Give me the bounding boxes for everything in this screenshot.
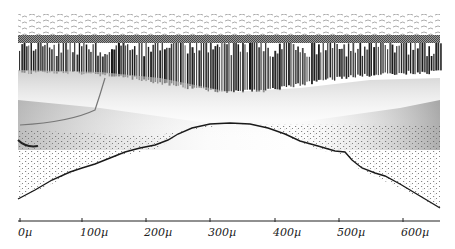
figure-canvas [0, 0, 455, 249]
scale-tick-label: 600µ [401, 226, 429, 239]
scale-axis [18, 218, 440, 222]
scale-tick-label: 400µ [273, 226, 301, 239]
top-cellular-texture [18, 14, 440, 36]
scale-tick-label: 500µ [337, 226, 365, 239]
scale-tick-label: 0µ [18, 226, 32, 239]
gray-band [18, 35, 440, 43]
scale-tick-label: 300µ [208, 226, 236, 239]
scale-tick-label: 200µ [144, 226, 172, 239]
microstructure-figure: 0µ100µ200µ300µ400µ500µ600µ [0, 0, 455, 249]
scale-tick-label: 100µ [80, 226, 108, 239]
